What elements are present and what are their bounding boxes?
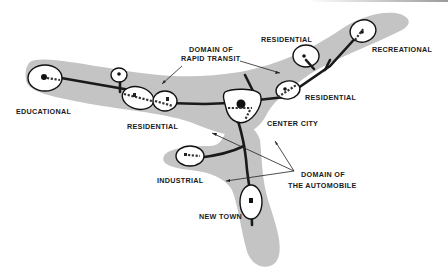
node-new-town [240, 185, 262, 219]
label-center-city: CENTER CITY [267, 119, 318, 128]
label-residential-west: RESIDENTIAL [127, 122, 179, 131]
label-recreational: RECREATIONAL [372, 45, 432, 54]
label-domain-rapid-transit-2: RAPID TRANSIT [181, 54, 241, 63]
label-educational: EDUCATIONAL [16, 107, 71, 116]
node-educational [28, 65, 62, 91]
label-residential-north: RESIDENTIAL [261, 35, 313, 44]
label-residential-east: RESIDENTIAL [305, 93, 357, 102]
urban-transit-diagram: EDUCATIONAL RESIDENTIAL DOMAIN OF RAPID … [0, 0, 448, 274]
label-domain-automobile-2: THE AUTOMOBILE [288, 181, 357, 190]
node-industrial [176, 146, 204, 166]
label-industrial: INDUSTRIAL [157, 176, 204, 185]
node-residential-west-2 [153, 91, 177, 111]
node-residential-small-west [111, 68, 127, 82]
domain-automobile-area [163, 120, 280, 267]
label-domain-rapid-transit-1: DOMAIN OF [189, 45, 233, 54]
label-new-town: NEW TOWN [199, 212, 242, 221]
label-domain-automobile-1: DOMAIN OF [301, 170, 345, 179]
